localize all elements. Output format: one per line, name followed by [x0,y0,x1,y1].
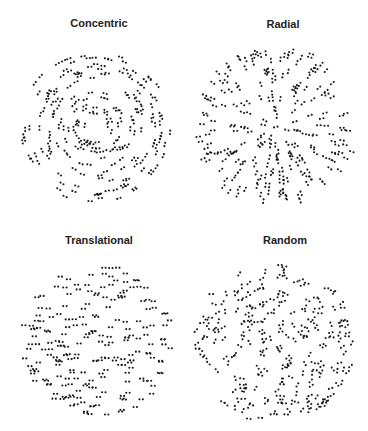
glass-pattern-radial [195,48,354,204]
glass-pattern-random [194,264,354,420]
glass-pattern-concentric [21,55,171,202]
glass-pattern-canvas [0,0,368,431]
glass-pattern-translational [21,267,173,416]
